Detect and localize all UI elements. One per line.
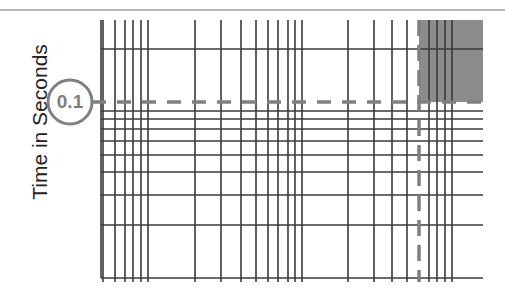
vertical-grid-lines xyxy=(101,20,452,282)
highlight-value-label: 0.1 xyxy=(48,80,92,124)
grid-diagram xyxy=(0,0,505,296)
